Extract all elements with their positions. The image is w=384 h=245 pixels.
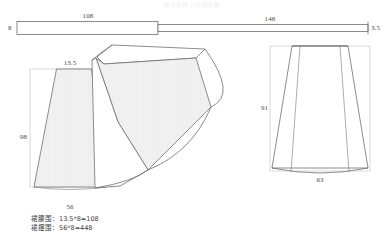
waistband-right-height-label: 3.5 [371, 24, 380, 32]
note-hem-calculation: 裙摆围：56*8=448 [31, 224, 93, 233]
pattern-drawing-canvas [0, 0, 384, 245]
waistband-main-rect [17, 22, 158, 35]
gore-height-label: 98 [20, 133, 27, 141]
sheet-title-faint: 裙子纸样 八片喇叭裙 [164, 2, 220, 8]
gore-fan-group [92, 45, 223, 188]
waistband-left-height-label: 8 [8, 24, 12, 32]
waistband-group [17, 22, 368, 35]
silhouette-group [270, 46, 370, 173]
gore-top-width-label: 13.5 [64, 59, 77, 67]
silhouette-hem-curve [272, 168, 368, 173]
waistband-length-label-148: 148 [265, 15, 276, 23]
gore-hem-width-label: 56 [66, 203, 73, 211]
silhouette-height-label: 91 [261, 104, 268, 112]
silhouette-outline [272, 46, 368, 168]
note-waist-calculation: 裙腰围：13.5*8=108 [31, 215, 99, 224]
waistband-extension-rect [158, 25, 368, 32]
waistband-length-label-108: 108 [83, 12, 94, 20]
silhouette-hem-label: 63 [316, 176, 323, 184]
